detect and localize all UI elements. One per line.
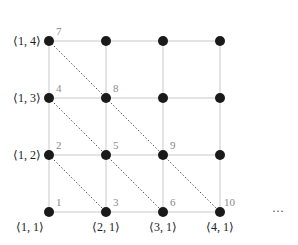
col-label-2-1: ⟨2, 1⟩ bbox=[92, 220, 120, 234]
label-3: 3 bbox=[113, 196, 119, 208]
node-9 bbox=[158, 150, 168, 160]
col-label-4-1: ⟨4, 1⟩ bbox=[206, 220, 234, 234]
node-5 bbox=[101, 150, 111, 160]
label-1: 1 bbox=[56, 196, 62, 208]
label-2: 2 bbox=[56, 139, 62, 151]
node-2 bbox=[44, 150, 54, 160]
label-4: 4 bbox=[56, 82, 62, 94]
node-4 bbox=[44, 93, 54, 103]
diagonal-7-10 bbox=[49, 41, 220, 212]
node-8 bbox=[101, 93, 111, 103]
node-1-4-right bbox=[101, 36, 111, 46]
node-7 bbox=[44, 36, 54, 46]
col-labels: ⟨1, 1⟩ ⟨2, 1⟩ ⟨3, 1⟩ ⟨4, 1⟩ bbox=[16, 220, 234, 234]
label-8: 8 bbox=[113, 82, 119, 94]
node-6 bbox=[158, 207, 168, 217]
label-6: 6 bbox=[170, 196, 176, 208]
row-label-1-2: ⟨1, 2⟩ bbox=[13, 148, 41, 162]
node-3-3 bbox=[158, 93, 168, 103]
number-labels: 7 4 8 2 5 9 1 3 6 10 bbox=[56, 25, 236, 208]
node-4-2 bbox=[215, 150, 225, 160]
col-label-1-1: ⟨1, 1⟩ bbox=[16, 220, 44, 234]
node-3 bbox=[101, 207, 111, 217]
label-9: 9 bbox=[170, 139, 176, 151]
node-4-4 bbox=[215, 36, 225, 46]
label-10: 10 bbox=[224, 196, 236, 208]
label-5: 5 bbox=[113, 139, 119, 151]
diagonals bbox=[49, 41, 220, 212]
node-10 bbox=[215, 207, 225, 217]
node-4-3 bbox=[215, 93, 225, 103]
row-labels: ⟨1, 4⟩ ⟨1, 3⟩ ⟨1, 2⟩ bbox=[13, 34, 41, 162]
label-7: 7 bbox=[56, 25, 62, 37]
row-label-1-4: ⟨1, 4⟩ bbox=[13, 34, 41, 48]
ellipsis: ··· bbox=[272, 204, 284, 218]
pairing-diagram: 7 4 8 2 5 9 1 3 6 10 ⟨1, 4⟩ ⟨1, 3⟩ ⟨1, 2… bbox=[0, 0, 298, 245]
col-label-3-1: ⟨3, 1⟩ bbox=[149, 220, 177, 234]
row-label-1-3: ⟨1, 3⟩ bbox=[13, 91, 41, 105]
node-1 bbox=[44, 207, 54, 217]
node-3-4 bbox=[158, 36, 168, 46]
